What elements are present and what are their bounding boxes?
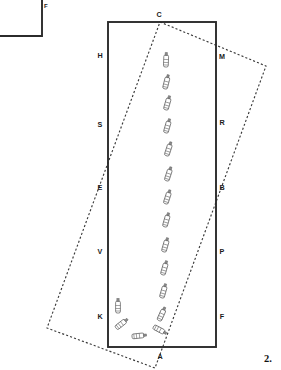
vessel-icon [161,237,170,252]
inset-corner-label-f: F [44,3,48,9]
label-point-s: S [98,120,103,129]
technical-diagram: F [0,0,281,370]
inset-partial-rectangle: F [0,0,48,36]
vessel-icon [163,189,172,204]
vessel-icon [164,141,173,156]
label-point-e: E [98,183,103,192]
vessel-icon [163,95,172,110]
vessel-icon [163,52,168,67]
vessel-track-group [157,52,173,321]
figure-container: F [0,0,281,370]
label-point-b: B [219,183,224,192]
vessel-icon [115,317,129,330]
vessel-icon [162,212,171,227]
label-point-f: F [220,312,225,321]
label-point-r: R [219,118,225,127]
vessel-icon [132,333,147,339]
label-point-c: C [156,10,161,19]
label-point-v: V [98,247,103,256]
vessel-icon [164,166,173,181]
vessel-icon [163,118,172,133]
label-point-m: M [219,52,225,61]
dashed-rotated-rectangle [47,22,266,368]
vessel-icon [116,299,121,314]
vessel-icon [159,283,168,298]
vessel-icon [162,74,170,89]
label-point-a: A [157,352,162,361]
vessel-icon [152,325,167,336]
inset-rect-outline [0,0,42,36]
vessel-icon [160,260,169,275]
label-point-h: H [97,51,102,60]
label-point-p: P [220,247,225,256]
label-point-k: K [97,312,103,321]
figure-number: 2. [264,353,272,364]
dashed-rect-outline [47,22,266,368]
vessel-icon [157,306,167,321]
